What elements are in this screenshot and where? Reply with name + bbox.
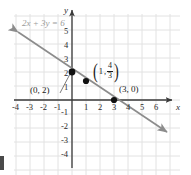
y-tick-5: 5 [64,27,68,36]
point-label-x-intercept: (3, 0) [119,85,139,94]
y-tick--4: -4 [61,150,68,159]
left-paren: ( [93,63,98,79]
x-tick-2: 2 [98,103,102,112]
x-tick-1: 1 [84,103,88,112]
page-edge-artifact [0,156,4,170]
x-tick--3: -3 [26,103,33,112]
y-axis-label: y [64,6,68,15]
point-label-midpoint: ( 1 , 4 3 ) [92,62,120,80]
y-tick-4: 4 [64,41,68,50]
y-tick--3: -3 [61,136,68,145]
y-tick-1: 1 [64,83,68,92]
midpoint-x-value: 1 [99,67,103,76]
equation-line [18,32,167,132]
x-tick-5: 5 [140,103,144,112]
point-midpoint [83,78,89,84]
x-tick--4: -4 [12,103,19,112]
equation-label: 2x + 3y = 6 [22,19,65,28]
midpoint-comma: , [104,67,106,76]
right-paren: ) [114,63,119,79]
x-axis-label: x [176,103,180,112]
fraction-numerator: 4 [107,62,113,70]
y-tick--2: -2 [61,122,68,131]
midpoint-y-fraction: 4 3 [107,62,113,80]
x-tick-6: 6 [154,103,158,112]
fraction-denominator: 3 [107,72,113,80]
x-tick-4: 4 [126,103,130,112]
y-tick--1: -1 [61,108,68,117]
x-tick--2: -2 [40,103,47,112]
point-y-intercept [69,69,76,76]
graph-figure: 2x + 3y = 6 y x -4 -3 -2 -1 1 2 3 4 5 6 … [0,0,191,175]
x-tick-3: 3 [112,103,116,112]
y-tick-2: 2 [64,69,68,78]
y-tick-3: 3 [64,55,68,64]
point-label-y-intercept: (0, 2) [30,86,50,95]
